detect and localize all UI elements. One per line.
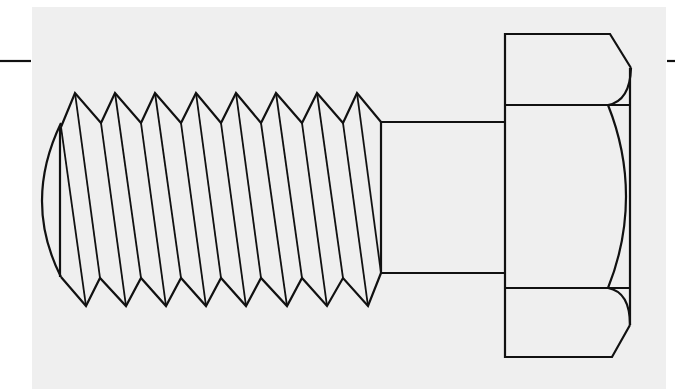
thread-helix-line xyxy=(221,123,246,306)
head-lower-arc xyxy=(608,288,630,325)
thread-helix-line xyxy=(261,123,287,306)
thread-helix-line xyxy=(61,127,86,306)
thread-helix-line xyxy=(181,123,206,306)
thread-helix-line xyxy=(317,93,343,278)
thread-helix-line xyxy=(236,93,261,278)
head-middle-arc xyxy=(608,105,626,288)
bolt-drawing xyxy=(0,0,675,389)
thread-end-arc xyxy=(42,123,61,277)
head-upper-arc xyxy=(608,68,631,105)
thread-top-profile xyxy=(61,93,381,127)
head-outline xyxy=(505,34,631,357)
thread-helix-line xyxy=(196,93,221,278)
thread-helix-line xyxy=(302,123,327,306)
